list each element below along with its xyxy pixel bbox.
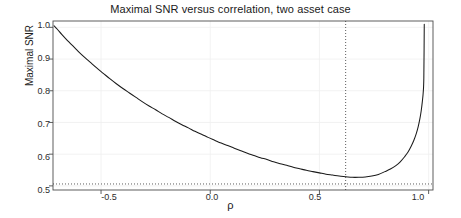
plot-frame [53,21,433,190]
axis-ticks [49,27,429,194]
reference-lines [53,21,433,190]
chart-figure: Maximal SNR versus correlation, two asse… [0,0,461,218]
gridlines [53,21,433,190]
plot-canvas [0,0,461,218]
